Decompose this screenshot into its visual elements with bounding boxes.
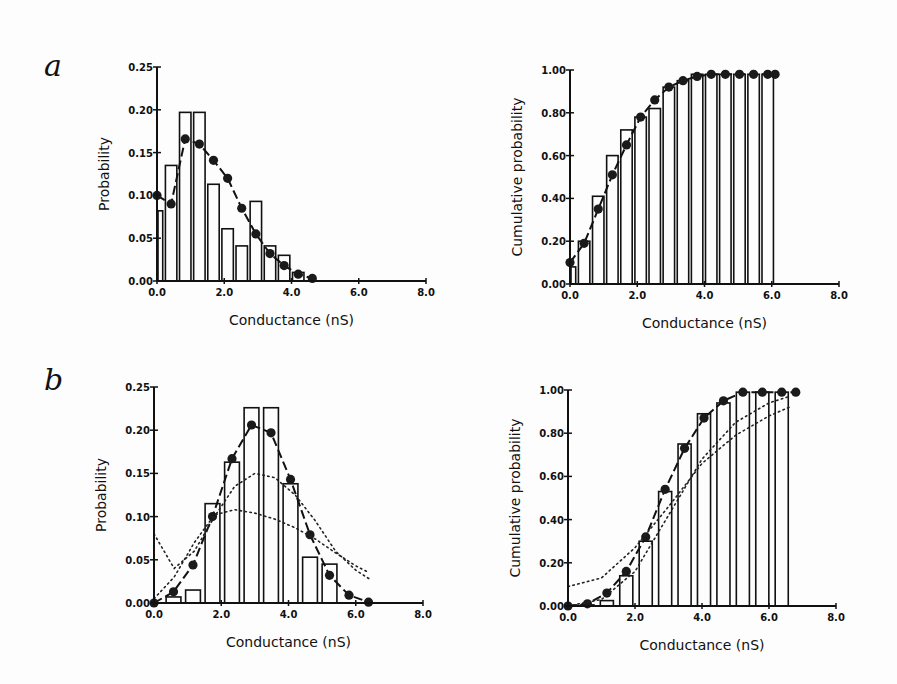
x-tick-label: 2.0 (628, 290, 646, 301)
histogram-bar (736, 392, 749, 606)
y-axis-title: Probability (93, 458, 109, 532)
histogram-bar (194, 112, 205, 281)
histogram-bar (691, 74, 702, 284)
data-point-marker (265, 249, 274, 258)
data-point-marker (758, 388, 767, 397)
histogram-bar (756, 392, 769, 606)
histogram-bar (225, 462, 240, 603)
histogram-bar (158, 211, 163, 281)
x-tick-label: 2.0 (212, 609, 230, 620)
data-point-marker (721, 70, 730, 79)
y-tick-label: 0.80 (541, 108, 566, 119)
x-tick-label: 0.0 (561, 290, 579, 301)
data-point-marker (735, 70, 744, 79)
model-curve-dashed (568, 392, 796, 606)
histogram-bar (663, 87, 674, 284)
y-tick-label: 0.25 (125, 382, 150, 393)
histogram-bar (748, 74, 759, 284)
model-curve-dashed (570, 74, 775, 262)
y-tick-label: 1.00 (539, 385, 564, 396)
y-tick-label: 1.00 (541, 65, 566, 76)
data-point-marker (286, 475, 295, 484)
data-point-marker (707, 70, 716, 79)
y-tick-label: 0.00 (128, 276, 153, 287)
histogram-bar (571, 267, 576, 284)
histogram-bar (208, 184, 219, 281)
x-tick-label: 4.0 (693, 612, 711, 623)
x-tick-label: 8.0 (417, 287, 435, 298)
data-point-marker (622, 567, 631, 576)
data-point-marker (699, 413, 708, 422)
histogram-bar (303, 557, 318, 603)
x-axis-title: Conductance (nS) (226, 634, 351, 650)
data-point-marker (777, 388, 786, 397)
histogram-bar (236, 246, 247, 281)
data-point-marker (719, 396, 728, 405)
y-tick-label: 0.25 (128, 62, 153, 73)
data-point-marker (594, 205, 603, 214)
data-point-marker (738, 388, 747, 397)
y-tick-label: 0.60 (539, 471, 564, 482)
data-point-marker (169, 587, 178, 596)
x-axis-title: Conductance (nS) (229, 312, 354, 328)
histogram-bar (697, 414, 710, 606)
y-tick-label: 0.10 (125, 512, 150, 523)
histogram-bar (322, 564, 337, 603)
x-tick-label: 6.0 (350, 287, 368, 298)
histogram-bar (649, 109, 660, 284)
x-tick-label: 8.0 (414, 609, 432, 620)
data-point-marker (247, 420, 256, 429)
y-tick-label: 0.80 (539, 428, 564, 439)
histogram-bar (678, 444, 691, 606)
data-point-marker (622, 140, 631, 149)
y-tick-label: 0.60 (541, 151, 566, 162)
x-tick-label: 6.0 (347, 609, 365, 620)
histogram-bar (222, 229, 233, 281)
data-point-marker (181, 134, 190, 143)
y-tick-label: 0.40 (539, 515, 564, 526)
histogram-bar (775, 392, 788, 606)
y-tick-label: 0.05 (125, 555, 150, 566)
histogram-bar (717, 403, 730, 606)
data-point-marker (280, 261, 289, 270)
x-tick-label: 4.0 (280, 609, 298, 620)
histogram-bar (165, 165, 176, 281)
data-point-marker (680, 444, 689, 453)
y-tick-label: 0.00 (541, 279, 566, 290)
data-point-marker (749, 70, 758, 79)
y-tick-label: 0.05 (128, 233, 153, 244)
data-point-marker (693, 72, 702, 81)
y-tick-label: 0.15 (125, 468, 150, 479)
data-point-marker (580, 239, 589, 248)
histogram-bar (620, 576, 633, 606)
y-tick-label: 0.20 (541, 236, 566, 247)
data-point-marker (294, 270, 303, 279)
chart-b-left: 0.02.04.06.08.00.000.050.100.150.200.25C… (93, 382, 432, 650)
x-tick-label: 2.0 (626, 612, 644, 623)
y-tick-label: 0.15 (128, 148, 153, 159)
chart-a-right: 0.02.04.06.08.00.000.200.400.600.801.00C… (509, 65, 848, 331)
y-tick-label: 0.10 (128, 190, 153, 201)
x-tick-label: 0.0 (145, 609, 163, 620)
x-tick-label: 0.0 (559, 612, 577, 623)
y-tick-label: 0.20 (539, 558, 564, 569)
x-tick-label: 6.0 (760, 612, 778, 623)
model-curve-dotted (154, 473, 369, 578)
y-axis-title: Cumulative probability (509, 97, 525, 256)
data-point-marker (223, 174, 232, 183)
data-point-marker (661, 485, 670, 494)
x-axis-title: Conductance (nS) (639, 637, 764, 653)
chart-b-right: 0.02.04.06.08.00.000.200.400.600.801.00C… (507, 385, 845, 653)
histogram-bar (762, 74, 773, 284)
data-point-marker (344, 591, 353, 600)
histogram-bar (706, 74, 717, 284)
y-axis-title: Cumulative probability (507, 418, 523, 577)
histogram-bar (720, 74, 731, 284)
chart-a-left: 0.02.04.06.08.00.000.050.100.150.200.25C… (96, 62, 435, 328)
x-tick-label: 2.0 (215, 287, 233, 298)
data-point-marker (771, 70, 780, 79)
data-point-marker (167, 199, 176, 208)
y-tick-label: 0.00 (125, 598, 150, 609)
data-point-marker (636, 112, 645, 121)
data-point-marker (664, 83, 673, 92)
